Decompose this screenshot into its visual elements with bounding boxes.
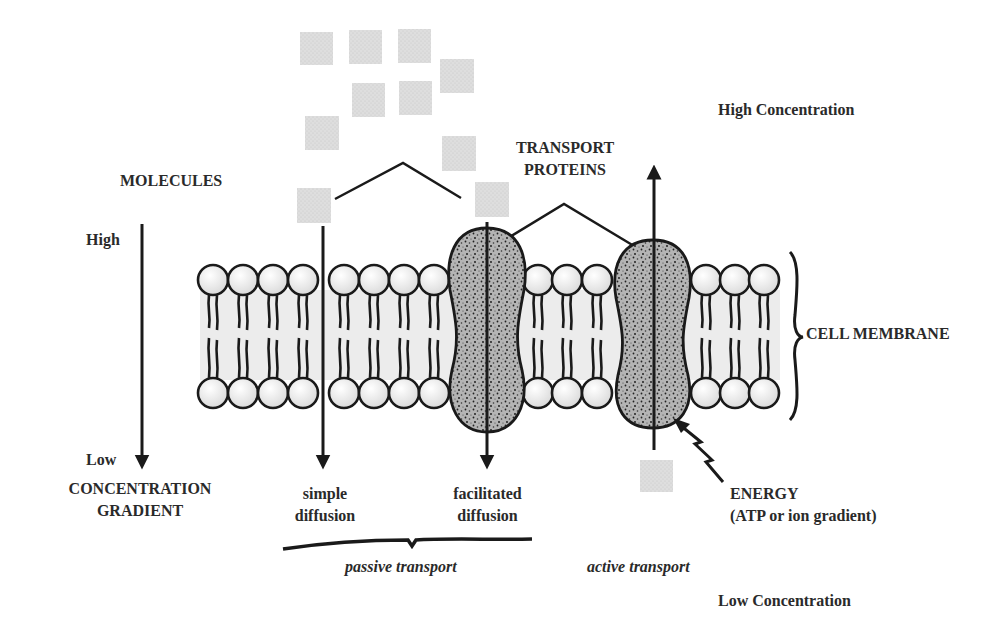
molecule-icon: [300, 32, 333, 65]
lightning-bolt-icon: [673, 418, 723, 482]
energy-label: ENERGY (ATP or ion gradient): [730, 484, 877, 526]
molecule-icon: [475, 182, 509, 217]
gradient-low-label: Low: [86, 450, 116, 470]
transport-proteins-label: TRANSPORT PROTEINS: [500, 138, 630, 180]
simple-diffusion-label: simple diffusion: [270, 484, 380, 526]
passive-transport-brace: [283, 539, 532, 549]
molecule-icon: [399, 81, 432, 115]
gradient-high-label: High: [86, 230, 120, 250]
passive-transport-label: passive transport: [345, 557, 457, 577]
low-concentration-label: Low Concentration: [718, 591, 851, 611]
active-transport-label: active transport: [587, 557, 690, 577]
molecule-icon: [352, 83, 385, 117]
molecule-icon: [442, 136, 476, 171]
concentration-gradient-label: CONCENTRATION GRADIENT: [50, 479, 230, 521]
membrane-transport-diagram: [0, 0, 1007, 636]
high-concentration-label: High Concentration: [718, 100, 854, 120]
cell-membrane-label: CELL MEMBRANE: [806, 324, 950, 344]
molecule-icon: [640, 460, 673, 492]
molecule-icon: [297, 188, 331, 223]
facilitated-diffusion-label: facilitated diffusion: [430, 484, 545, 526]
molecules-label: MOLECULES: [120, 171, 222, 191]
membrane-brace: [790, 252, 803, 420]
molecule-icon: [349, 30, 382, 64]
molecule-icon: [398, 29, 431, 63]
molecule-icon: [305, 116, 339, 150]
molecule-icon: [440, 59, 474, 93]
